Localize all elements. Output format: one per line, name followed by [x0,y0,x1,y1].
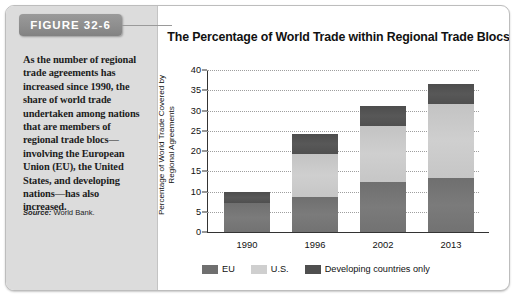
gridline [207,70,479,71]
bar-segment-eu [360,182,406,232]
figure-card: As the number of regional trade agreemen… [5,5,510,291]
bar-segment-us [292,154,338,197]
legend-swatch-us [251,265,267,274]
bar-1996 [292,134,338,232]
chart-legend: EUU.S.Developing countries only [202,262,502,276]
y-tick-label: 0 [196,227,201,237]
source-value: World Bank. [51,208,94,217]
x-axis-line [207,232,489,233]
y-tick-mark [202,211,207,212]
y-tick-label: 40 [191,65,201,75]
y-tick-label: 25 [191,126,201,136]
y-tick-mark [202,232,207,233]
plot-area: 0510152025303540 1990199620022013 [207,70,479,232]
y-tick-mark [202,90,207,91]
chart-title: The Percentage of World Trade within Reg… [166,30,510,44]
plot-wrapper: Percentage of World Trade Covered by Reg… [161,56,510,290]
x-tick-label-1990: 1990 [217,239,277,250]
bar-segment-us [360,126,406,182]
y-tick-mark [202,151,207,152]
y-tick-label: 10 [191,187,201,197]
bar-segment-dev [428,84,474,104]
tab-rule-divider [122,25,172,26]
y-axis-title: Percentage of World Trade Covered by Reg… [157,65,179,225]
bar-segment-dev [360,106,406,125]
bar-segment-eu [292,197,338,232]
caption-panel: As the number of regional trade agreemen… [6,6,158,290]
legend-item-dev: Developing countries only [305,264,430,274]
y-tick-mark [202,171,207,172]
y-tick-label: 20 [191,146,201,156]
bar-2002 [360,106,406,232]
y-tick-mark [202,70,207,71]
bar-segment-us [428,104,474,177]
source-label: Source: [23,208,51,217]
y-tick-label: 5 [196,207,201,217]
legend-swatch-dev [305,265,321,274]
legend-label-dev: Developing countries only [325,264,430,274]
y-tick-label: 15 [191,166,201,176]
legend-item-eu: EU [202,264,235,274]
y-tick-mark [202,191,207,192]
y-tick-label: 30 [191,106,201,116]
y-tick-mark [202,110,207,111]
bar-segment-dev [292,134,338,154]
y-tick-mark [202,130,207,131]
x-tick-label-2002: 2002 [353,239,413,250]
legend-swatch-eu [202,265,218,274]
bar-1990 [224,192,270,233]
x-tick-label-2013: 2013 [421,239,481,250]
bar-segment-eu [428,178,474,232]
bar-segment-dev [224,192,270,204]
legend-label-us: U.S. [271,264,289,274]
bar-segment-eu [224,203,270,232]
legend-item-us: U.S. [251,264,289,274]
legend-label-eu: EU [222,264,235,274]
figure-source: Source: World Bank. [23,208,151,218]
figure-caption-text: As the number of regional trade agreemen… [23,53,145,214]
y-tick-label: 35 [191,85,201,95]
figure-number-tab: FIGURE 32-6 [19,14,122,36]
bar-2013 [428,84,474,232]
x-tick-label-1996: 1996 [285,239,345,250]
